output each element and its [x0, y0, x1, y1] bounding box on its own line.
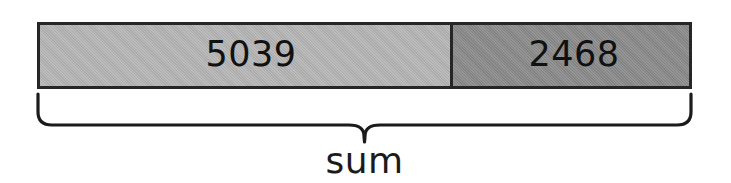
bar-segment-left-label: 5039	[205, 37, 296, 72]
brace-caption: sum	[0, 141, 731, 181]
stacked-bar: 5039 2468	[37, 22, 692, 89]
brace	[34, 92, 695, 144]
bar-segment-left: 5039	[40, 25, 453, 86]
brace-icon	[34, 92, 695, 144]
bar-segment-right: 2468	[453, 25, 689, 86]
diagram-canvas: 5039 2468 sum	[0, 0, 731, 183]
bar-segment-right-label: 2468	[528, 37, 619, 72]
brace-caption-text: sum	[325, 141, 403, 181]
